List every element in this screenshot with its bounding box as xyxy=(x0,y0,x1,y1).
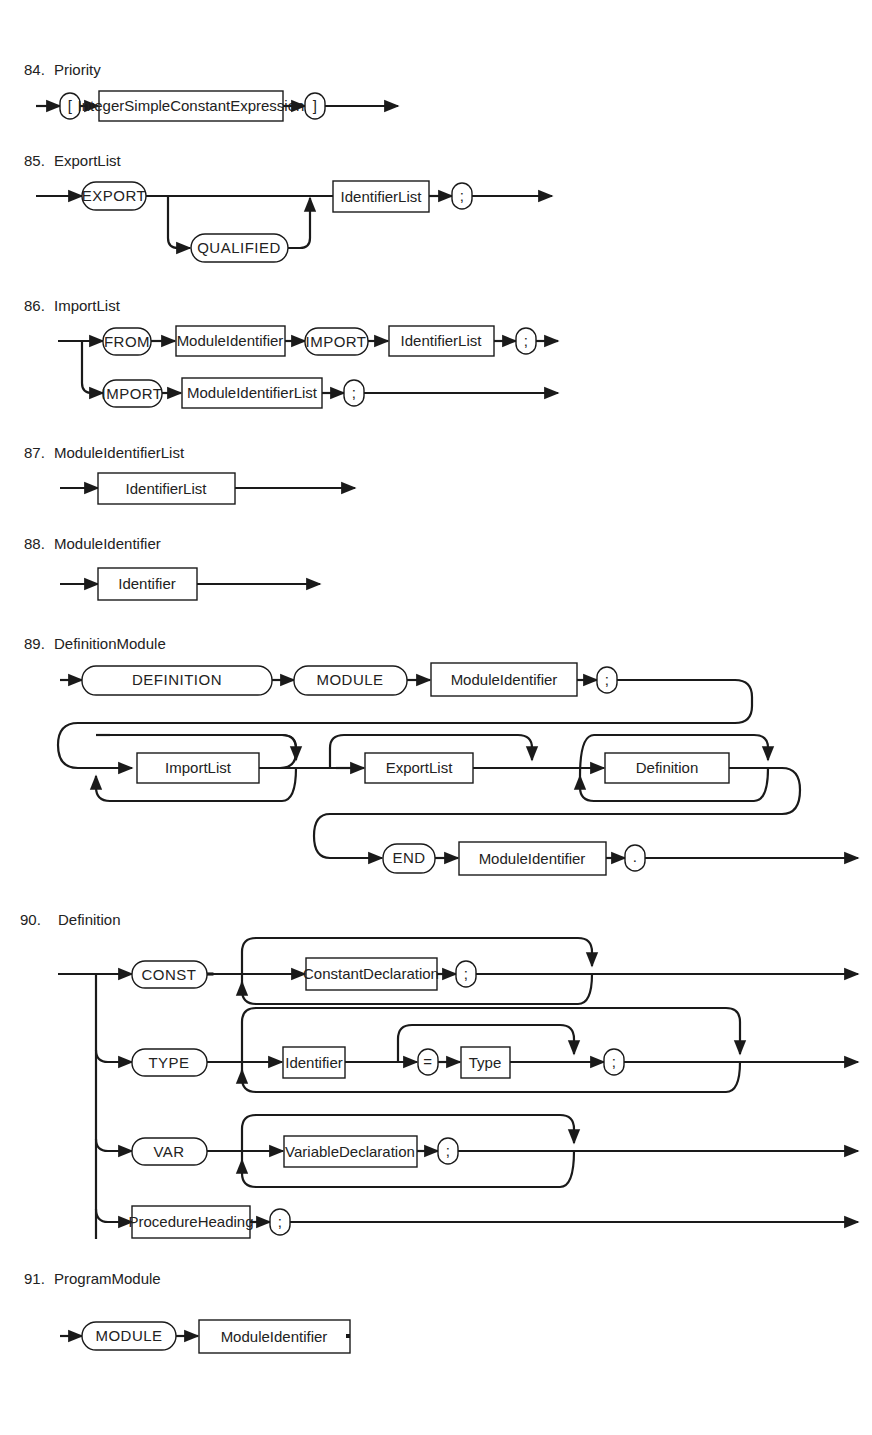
rule-87-moduleidentifierlist: 87. ModuleIdentifierList IdentifierList xyxy=(24,444,355,504)
rule-number: 90. xyxy=(20,911,41,928)
rule-86-importlist: 86. ImportList FROM ModuleIdentifier IMP… xyxy=(24,297,558,408)
rule-title: ModuleIdentifierList xyxy=(54,444,185,461)
terminal-label: = xyxy=(423,1053,432,1070)
nonterminal-label: ConstantDeclaration xyxy=(303,965,439,982)
nonterminal-label: IdentifierList xyxy=(126,480,208,497)
rule-number: 84. xyxy=(24,61,45,78)
rule-90-definition: 90. Definition CONST ConstantDeclaration… xyxy=(20,911,858,1239)
rule-85-exportlist: 85. ExportList EXPORT QUALIFIED Identifi… xyxy=(24,152,552,262)
terminal-label: [ xyxy=(68,97,73,114)
syntax-diagrams-canvas: 84. Priority [ IntegerSimpleConstantExpr… xyxy=(0,0,872,1435)
branch-path xyxy=(82,341,103,393)
rule-91-programmodule: 91. ProgramModule MODULE ModuleIdentifie… xyxy=(24,1270,350,1353)
terminal-label: IMPORT xyxy=(101,385,162,402)
branch-path xyxy=(96,1050,132,1062)
bypass-path xyxy=(288,198,310,248)
nonterminal-label: VariableDeclaration xyxy=(285,1143,415,1160)
rule-number: 88. xyxy=(24,535,45,552)
terminal-label: END xyxy=(392,849,425,866)
rule-title: ProgramModule xyxy=(54,1270,161,1287)
branch-path xyxy=(96,1209,132,1222)
loop-arrow-icon xyxy=(282,735,296,760)
nonterminal-label: Type xyxy=(469,1054,502,1071)
nonterminal-label: ModuleIdentifier xyxy=(451,671,558,688)
terminal-label: ; xyxy=(612,1053,617,1070)
nonterminal-label: Identifier xyxy=(285,1054,343,1071)
terminal-label: VAR xyxy=(153,1143,184,1160)
terminal-label: CONST xyxy=(142,966,197,983)
nonterminal-label: ModuleIdentifier xyxy=(177,332,284,349)
nonterminal-label: ModuleIdentifierList xyxy=(187,384,318,401)
rule-number: 91. xyxy=(24,1270,45,1287)
branch-path xyxy=(96,1139,132,1151)
rule-title: Priority xyxy=(54,61,101,78)
rule-title: DefinitionModule xyxy=(54,635,166,652)
terminal-label: ; xyxy=(446,1142,451,1159)
nonterminal-label: ExportList xyxy=(386,759,454,776)
nonterminal-label: ImportList xyxy=(165,759,232,776)
nonterminal-label: ModuleIdentifier xyxy=(479,850,586,867)
terminal-label: QUALIFIED xyxy=(197,239,281,256)
nonterminal-label: Identifier xyxy=(118,575,176,592)
rule-title: ImportList xyxy=(54,297,121,314)
terminal-label: FROM xyxy=(104,333,150,350)
nonterminal-label: IntegerSimpleConstantExpression xyxy=(78,97,305,114)
nonterminal-label: IdentifierList xyxy=(341,188,423,205)
rule-number: 85. xyxy=(24,152,45,169)
terminal-label: ; xyxy=(605,671,610,688)
terminal-label: ] xyxy=(313,97,318,114)
terminal-label: EXPORT xyxy=(82,187,146,204)
terminal-label: ; xyxy=(464,965,469,982)
nonterminal-label: ModuleIdentifier xyxy=(221,1328,328,1345)
rule-88-moduleidentifier: 88. ModuleIdentifier Identifier xyxy=(24,535,320,600)
rule-title: ModuleIdentifier xyxy=(54,535,161,552)
terminal-label: MODULE xyxy=(95,1327,162,1344)
rule-number: 87. xyxy=(24,444,45,461)
rule-number: 89. xyxy=(24,635,45,652)
rule-title: ExportList xyxy=(54,152,122,169)
terminal-label: DEFINITION xyxy=(132,671,222,688)
terminal-label: IMPORT xyxy=(305,333,366,350)
nonterminal-label: IdentifierList xyxy=(401,332,483,349)
terminal-label: MODULE xyxy=(316,671,383,688)
terminal-label: ; xyxy=(352,384,357,401)
terminal-label: TYPE xyxy=(148,1054,189,1071)
rule-89-definitionmodule: 89. DefinitionModule DEFINITION MODULE M… xyxy=(24,635,858,875)
bypass-path xyxy=(168,196,190,248)
terminal-label: . xyxy=(633,848,638,865)
rule-title: Definition xyxy=(58,911,121,928)
rule-84-priority: 84. Priority [ IntegerSimpleConstantExpr… xyxy=(24,61,398,121)
nonterminal-label: Definition xyxy=(636,759,699,776)
terminal-label: ; xyxy=(278,1213,283,1230)
nonterminal-label: ProcedureHeading xyxy=(128,1213,253,1230)
terminal-label: ; xyxy=(524,332,529,349)
rule-number: 86. xyxy=(24,297,45,314)
terminal-label: ; xyxy=(460,187,465,204)
